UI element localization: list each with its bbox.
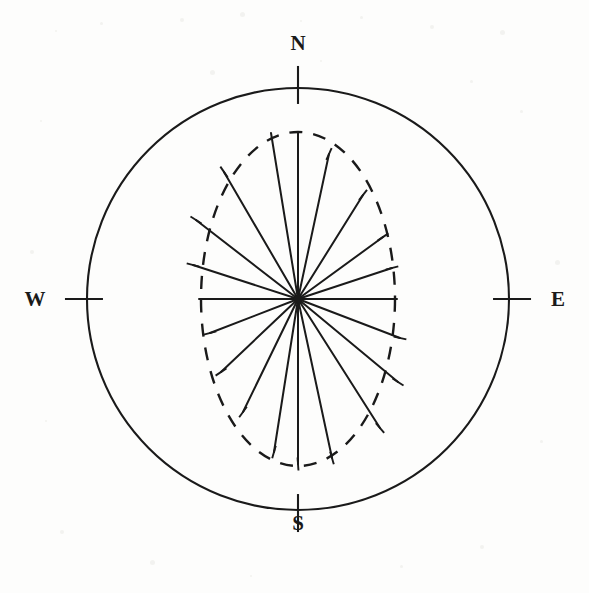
spoke-sse-a [298,299,380,428]
spoke-crossbar-11 [204,331,217,334]
spoke-ese-a [298,299,400,338]
rose-diagram-figure: N E S W [0,0,589,593]
cardinal-label-south: S [283,513,313,534]
center-hub [294,295,302,303]
spoke-wsw-a [221,299,298,372]
spoke-crossbar-2 [378,233,389,240]
spoke-crossbar-3 [386,266,399,269]
spoke-crossbar-1 [359,190,367,200]
spoke-crossbar-14 [220,167,227,178]
center-hub-group [294,295,302,303]
spoke-crossbar-6 [376,423,384,433]
spoke-ene-a [298,237,383,299]
cardinal-label-west: W [20,289,50,310]
spoke-crossbar-15 [298,458,299,471]
rose-diagram-canvas [0,0,589,593]
spoke-crossbar-12 [187,263,200,266]
cardinal-label-east: E [543,289,573,310]
spoke-nne-b [298,195,363,299]
spoke-crossbar-10 [216,368,227,375]
spoke-crossbar-9 [239,407,247,418]
spoke-ene-b [298,268,392,299]
cardinal-label-north: N [283,33,313,54]
spoke-crossbar-5 [392,379,403,386]
spoke-crossbar-13 [190,217,201,224]
spoke-wnw-b [196,220,298,299]
spoke-nne-a [298,154,329,299]
spoke-crossbar-4 [394,337,407,340]
